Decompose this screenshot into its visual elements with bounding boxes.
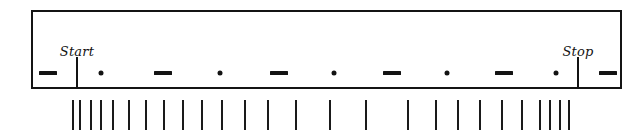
tick-15 xyxy=(329,100,331,130)
tick-14 xyxy=(295,100,297,130)
mark-dash-7 xyxy=(383,71,401,75)
tick-10 xyxy=(201,100,203,130)
tick-11 xyxy=(221,100,223,130)
tick-12 xyxy=(244,100,246,130)
tick-5 xyxy=(112,100,114,130)
tick-18 xyxy=(435,100,437,130)
tick-3 xyxy=(90,100,92,130)
mark-dot-2 xyxy=(99,71,104,76)
mark-dash-1 xyxy=(39,71,57,75)
figure-canvas: StartStop xyxy=(0,0,643,138)
tick-26 xyxy=(568,100,570,130)
mark-dash-9 xyxy=(495,71,513,75)
tick-22 xyxy=(521,100,523,130)
mark-dash-3 xyxy=(154,71,172,75)
tick-23 xyxy=(539,100,541,130)
mark-dash-5 xyxy=(270,71,288,75)
tick-25 xyxy=(559,100,561,130)
tick-1 xyxy=(72,100,74,130)
tick-24 xyxy=(549,100,551,130)
tick-4 xyxy=(100,100,102,130)
signal-bar xyxy=(31,10,622,89)
tick-20 xyxy=(479,100,481,130)
stop-label: Stop xyxy=(562,45,593,58)
start-marker-line xyxy=(76,57,78,89)
tick-8 xyxy=(163,100,165,130)
tick-19 xyxy=(457,100,459,130)
start-label: Start xyxy=(60,45,94,58)
tick-6 xyxy=(128,100,130,130)
tick-21 xyxy=(501,100,503,130)
mark-dot-6 xyxy=(332,71,337,76)
tick-16 xyxy=(365,100,367,130)
tick-7 xyxy=(145,100,147,130)
mark-dot-8 xyxy=(445,71,450,76)
mark-dot-10 xyxy=(554,71,559,76)
tick-2 xyxy=(79,100,81,130)
mark-dot-4 xyxy=(218,71,223,76)
mark-dash-11 xyxy=(599,71,617,75)
tick-17 xyxy=(407,100,409,130)
stop-marker-line xyxy=(577,57,579,89)
tick-13 xyxy=(267,100,269,130)
tick-9 xyxy=(182,100,184,130)
